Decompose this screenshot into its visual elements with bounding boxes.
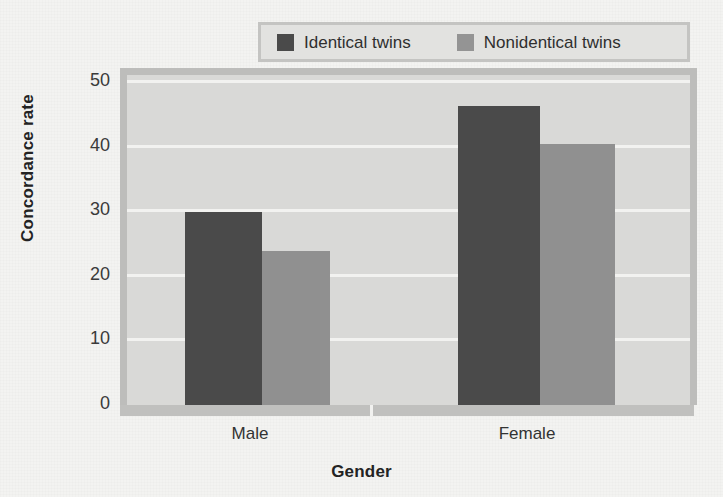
- plot-area: [127, 75, 690, 412]
- x-axis-baseline: [120, 405, 697, 416]
- x-axis-tick-separator: [694, 405, 697, 416]
- x-axis-title: Gender: [0, 462, 723, 482]
- x-tick-label-male: Male: [232, 424, 269, 444]
- y-tick-label: 10: [66, 329, 110, 347]
- y-axis-title: Concordance rate: [18, 78, 38, 258]
- plot-frame: [120, 68, 697, 412]
- x-axis-tick-separator: [370, 405, 373, 416]
- bar-male-nonidentical-twins: [262, 251, 330, 412]
- y-tick-label: 40: [66, 136, 110, 154]
- bar-chart-figure: Identical twins Nonidentical twins Conco…: [0, 0, 723, 497]
- legend-label-identical-twins: Identical twins: [304, 34, 411, 51]
- legend-entry-identical-twins: Identical twins: [277, 34, 411, 51]
- y-axis-tick-labels: 50 40 30 20 10 0: [66, 68, 110, 412]
- bar-male-identical-twins: [185, 212, 262, 412]
- gridline-50: [127, 80, 690, 83]
- legend-entry-nonidentical-twins: Nonidentical twins: [457, 34, 621, 51]
- legend-swatch-nonidentical-icon: [457, 34, 474, 51]
- y-tick-label: 50: [66, 71, 110, 89]
- chart-legend: Identical twins Nonidentical twins: [258, 22, 690, 62]
- y-tick-label: 0: [66, 394, 110, 412]
- bar-female-identical-twins: [458, 106, 540, 412]
- x-tick-label-female: Female: [499, 424, 556, 444]
- legend-label-nonidentical-twins: Nonidentical twins: [484, 34, 621, 51]
- legend-swatch-identical-icon: [277, 34, 294, 51]
- y-tick-label: 30: [66, 200, 110, 218]
- bar-female-nonidentical-twins: [540, 144, 615, 412]
- y-tick-label: 20: [66, 265, 110, 283]
